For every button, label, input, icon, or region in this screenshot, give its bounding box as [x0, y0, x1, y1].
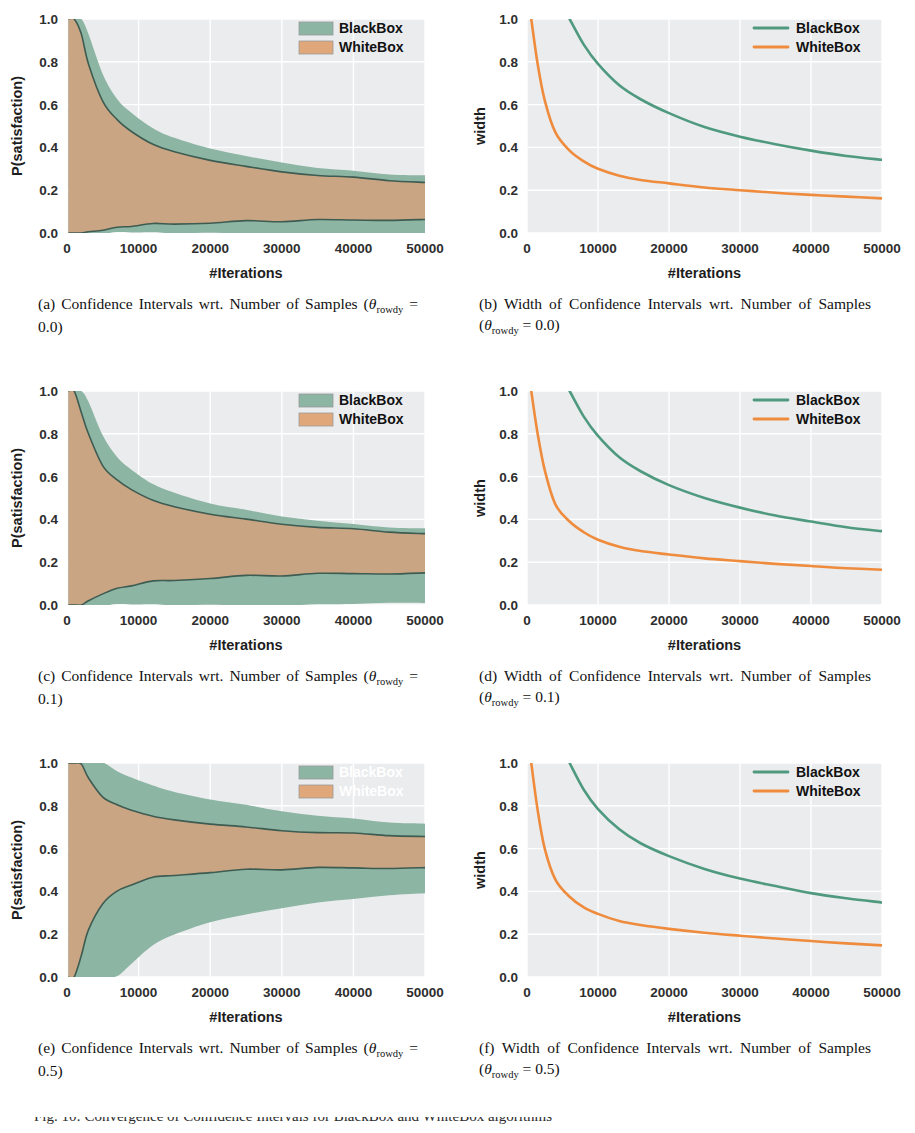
y-tick-label: 1.0 [499, 12, 518, 27]
legend-swatch-blackbox [299, 394, 333, 407]
chart-svg-d: 010000200003000040000500000.00.20.40.60.… [457, 372, 914, 664]
x-tick-label: 50000 [406, 241, 444, 256]
legend-label-whitebox: WhiteBox [796, 783, 861, 799]
x-tick-label: 10000 [579, 241, 617, 256]
x-tick-label: 30000 [721, 241, 759, 256]
y-tick-label: 0.8 [499, 799, 518, 814]
chart-svg-f: 010000200003000040000500000.00.20.40.60.… [457, 744, 914, 1036]
x-tick-label: 30000 [263, 613, 301, 628]
legend-label-whitebox: WhiteBox [339, 411, 404, 427]
x-tick-label: 50000 [863, 241, 901, 256]
y-tick-label: 0.6 [39, 470, 58, 485]
legend-swatch-whitebox [299, 785, 333, 798]
caption-f-theta: θ [484, 1060, 492, 1077]
y-tick-label: 0.8 [39, 55, 58, 70]
y-tick-label: 1.0 [39, 12, 58, 27]
y-tick-label: 0.0 [39, 970, 58, 985]
plot-c[interactable]: 010000200003000040000500000.00.20.40.60.… [0, 372, 457, 664]
bottom-cut-text: Fig. 10: Convergence of Confidence Inter… [34, 1117, 552, 1125]
x-tick-label: 50000 [406, 985, 444, 1000]
caption-d-tag: (d) [479, 667, 497, 684]
x-tick-label: 50000 [863, 985, 901, 1000]
caption-d-theta: θ [484, 688, 492, 705]
x-tick-label: 50000 [863, 613, 901, 628]
caption-d: (d) Width of Confidence Intervals wrt. N… [479, 666, 871, 710]
bottom-cut-text-strip: Fig. 10: Convergence of Confidence Inter… [0, 1117, 915, 1133]
subfigure-f: 010000200003000040000500000.00.20.40.60.… [457, 744, 914, 1116]
y-tick-label: 0.8 [499, 55, 518, 70]
plot-a[interactable]: 010000200003000040000500000.00.20.40.60.… [0, 0, 457, 292]
plot-f[interactable]: 010000200003000040000500000.00.20.40.60.… [457, 744, 914, 1036]
plot-b[interactable]: 010000200003000040000500000.00.20.40.60.… [457, 0, 914, 292]
caption-a-text: Confidence Intervals wrt. Number of Samp… [61, 295, 369, 312]
legend-swatch-whitebox [299, 413, 333, 426]
y-tick-label: 0.8 [39, 799, 58, 814]
y-tick-label: 0.0 [39, 598, 58, 613]
y-tick-label: 0.2 [39, 555, 58, 570]
legend-label-whitebox: WhiteBox [796, 411, 861, 427]
plot-d[interactable]: 010000200003000040000500000.00.20.40.60.… [457, 372, 914, 664]
x-tick-label: 20000 [191, 613, 229, 628]
y-tick-label: 0.6 [39, 842, 58, 857]
caption-c: (c) Confidence Intervals wrt. Number of … [38, 666, 418, 710]
x-tick-label: 0 [63, 613, 71, 628]
x-tick-label: 40000 [335, 985, 373, 1000]
caption-b-eq: = 0.0) [519, 316, 560, 333]
subfigure-d: 010000200003000040000500000.00.20.40.60.… [457, 372, 914, 744]
legend-label-blackbox: BlackBox [339, 392, 403, 408]
plot-e[interactable]: 010000200003000040000500000.00.20.40.60.… [0, 744, 457, 1036]
y-tick-label: 0.2 [499, 927, 518, 942]
x-tick-label: 40000 [335, 613, 373, 628]
y-axis-title: P(satisfaction) [9, 448, 25, 548]
caption-a: (a) Confidence Intervals wrt. Number of … [38, 294, 418, 338]
x-tick-label: 0 [63, 241, 71, 256]
y-tick-label: 0.6 [499, 842, 518, 857]
caption-b-theta: θ [484, 316, 492, 333]
x-tick-label: 20000 [191, 241, 229, 256]
caption-b-sub: rowdy [492, 325, 519, 336]
y-tick-label: 0.0 [499, 970, 518, 985]
legend-swatch-whitebox [299, 41, 333, 54]
subfigure-c: 010000200003000040000500000.00.20.40.60.… [0, 372, 457, 744]
caption-b: (b) Width of Confidence Intervals wrt. N… [479, 294, 871, 338]
caption-c-sub: rowdy [376, 676, 403, 687]
subfigure-a: 010000200003000040000500000.00.20.40.60.… [0, 0, 457, 372]
y-tick-label: 1.0 [499, 756, 518, 771]
x-tick-label: 20000 [650, 613, 688, 628]
y-tick-label: 0.4 [499, 512, 518, 527]
caption-a-sub: rowdy [376, 304, 403, 315]
y-tick-label: 1.0 [499, 384, 518, 399]
x-tick-label: 10000 [120, 985, 158, 1000]
x-tick-label: 20000 [650, 241, 688, 256]
x-tick-label: 0 [523, 985, 531, 1000]
y-axis-title: P(satisfaction) [9, 820, 25, 920]
y-axis-title: width [472, 107, 488, 146]
caption-a-tag: (a) [38, 295, 55, 312]
x-tick-label: 40000 [335, 241, 373, 256]
x-tick-label: 20000 [191, 985, 229, 1000]
caption-c-text: Confidence Intervals wrt. Number of Samp… [61, 667, 369, 684]
caption-e-tag: (e) [38, 1039, 55, 1056]
x-tick-label: 30000 [263, 985, 301, 1000]
x-axis-title: #Iterations [668, 265, 741, 281]
x-tick-label: 10000 [579, 613, 617, 628]
x-axis-title: #Iterations [668, 637, 741, 653]
caption-f: (f) Width of Confidence Intervals wrt. N… [479, 1038, 871, 1082]
caption-e: (e) Confidence Intervals wrt. Number of … [38, 1038, 418, 1082]
x-axis-title: #Iterations [668, 1009, 741, 1025]
chart-svg-a: 010000200003000040000500000.00.20.40.60.… [0, 0, 457, 292]
y-tick-label: 0.6 [39, 98, 58, 113]
caption-b-tag: (b) [479, 295, 497, 312]
legend-label-whitebox: WhiteBox [339, 39, 404, 55]
y-tick-label: 0.6 [499, 98, 518, 113]
y-tick-label: 0.6 [499, 470, 518, 485]
x-tick-label: 40000 [792, 613, 830, 628]
y-tick-label: 1.0 [39, 384, 58, 399]
legend-label-blackbox: BlackBox [796, 20, 860, 36]
y-axis-title: width [472, 851, 488, 890]
y-axis-title: width [472, 479, 488, 518]
caption-d-eq: = 0.1) [519, 688, 560, 705]
x-axis-title: #Iterations [209, 1009, 282, 1025]
subfigure-b: 010000200003000040000500000.00.20.40.60.… [457, 0, 914, 372]
y-tick-label: 0.4 [39, 884, 58, 899]
